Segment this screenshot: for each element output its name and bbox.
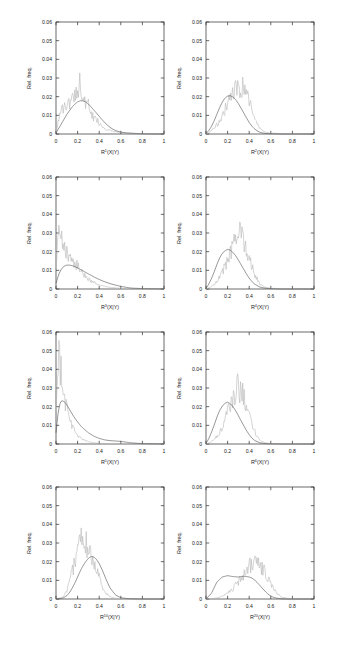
x-tick-label: 0.4 bbox=[96, 138, 103, 144]
x-tick-label: 0.6 bbox=[117, 448, 124, 454]
x-tick-label: 0.8 bbox=[139, 603, 146, 609]
y-tick-label: 0.01 bbox=[192, 422, 202, 428]
distribution-curve-noisy-gray bbox=[56, 225, 164, 289]
x-tick-label: 0.2 bbox=[224, 293, 231, 299]
y-tick-label: 0.01 bbox=[192, 267, 202, 273]
y-tick-label: 0 bbox=[199, 441, 202, 447]
y-tick-label: 0.06 bbox=[192, 174, 202, 180]
x-tick-label: 0.6 bbox=[117, 603, 124, 609]
y-tick-label: 0.03 bbox=[42, 230, 52, 236]
y-tick-label: 0.05 bbox=[42, 193, 52, 199]
y-tick-label: 0.06 bbox=[192, 484, 202, 490]
y-tick-label: 0.06 bbox=[192, 329, 202, 335]
x-tick-label: 0 bbox=[205, 293, 208, 299]
x-tick-label: 0.2 bbox=[74, 138, 81, 144]
histogram-panel-4: 00.010.020.030.040.050.0600.20.40.60.81R… bbox=[172, 169, 326, 313]
x-axis-label: R20(X|Y) bbox=[250, 614, 270, 620]
y-axis-label: Rel. freq. bbox=[176, 67, 182, 89]
x-tick-label: 0.4 bbox=[246, 293, 253, 299]
y-tick-label: 0.01 bbox=[42, 422, 52, 428]
x-tick-label: 1 bbox=[313, 138, 316, 144]
y-tick-label: 0.04 bbox=[42, 366, 52, 372]
y-tick-label: 0 bbox=[49, 131, 52, 137]
x-tick-label: 1 bbox=[313, 448, 316, 454]
y-tick-label: 0 bbox=[49, 286, 52, 292]
y-tick-label: 0.05 bbox=[192, 503, 202, 509]
histogram-panel-3: 00.010.020.030.040.050.0600.20.40.60.81R… bbox=[22, 169, 176, 313]
y-tick-label: 0.02 bbox=[42, 94, 52, 100]
x-tick-label: 0.4 bbox=[246, 448, 253, 454]
distribution-curve-noisy-gray bbox=[206, 77, 314, 134]
y-tick-label: 0.01 bbox=[192, 577, 202, 583]
histogram-panel-5: 00.010.020.030.040.050.0600.20.40.60.81R… bbox=[22, 324, 176, 468]
y-tick-label: 0.02 bbox=[42, 404, 52, 410]
histogram-panel-8: 00.010.020.030.040.050.0600.20.40.60.81R… bbox=[172, 479, 326, 623]
y-tick-label: 0 bbox=[199, 131, 202, 137]
y-tick-label: 0.02 bbox=[192, 404, 202, 410]
x-axis-label: R2(X|Y) bbox=[251, 149, 269, 155]
x-tick-label: 0 bbox=[55, 603, 58, 609]
plot-frame bbox=[206, 22, 314, 134]
distribution-curve-smooth-dark bbox=[56, 265, 164, 289]
y-tick-label: 0.03 bbox=[192, 230, 202, 236]
plot-frame bbox=[206, 177, 314, 289]
plot-frame bbox=[206, 332, 314, 444]
y-tick-label: 0.02 bbox=[192, 94, 202, 100]
distribution-curve-smooth-dark bbox=[56, 556, 164, 599]
plot-frame bbox=[56, 22, 164, 134]
figure-panel-grid: 00.010.020.030.040.050.0600.20.40.60.81R… bbox=[0, 0, 347, 645]
y-tick-label: 0.01 bbox=[192, 112, 202, 118]
y-tick-label: 0.06 bbox=[42, 329, 52, 335]
distribution-curve-noisy-gray bbox=[56, 340, 164, 444]
y-tick-label: 0.05 bbox=[42, 348, 52, 354]
x-tick-label: 0.6 bbox=[267, 448, 274, 454]
y-tick-label: 0.04 bbox=[42, 211, 52, 217]
x-tick-label: 0.2 bbox=[74, 293, 81, 299]
x-tick-label: 0 bbox=[55, 138, 58, 144]
x-tick-label: 0 bbox=[205, 603, 208, 609]
x-tick-label: 1 bbox=[163, 448, 166, 454]
plot-frame bbox=[206, 487, 314, 599]
x-tick-label: 0.2 bbox=[224, 138, 231, 144]
x-tick-label: 1 bbox=[163, 603, 166, 609]
y-tick-label: 0 bbox=[49, 596, 52, 602]
y-tick-label: 0.03 bbox=[42, 75, 52, 81]
y-tick-label: 0 bbox=[49, 441, 52, 447]
x-tick-label: 0.2 bbox=[74, 603, 81, 609]
x-tick-label: 0.8 bbox=[289, 293, 296, 299]
x-tick-label: 1 bbox=[163, 293, 166, 299]
y-tick-label: 0.03 bbox=[42, 385, 52, 391]
y-tick-label: 0.06 bbox=[42, 174, 52, 180]
histogram-panel-6: 00.010.020.030.040.050.0600.20.40.60.81R… bbox=[172, 324, 326, 468]
y-tick-label: 0.06 bbox=[42, 19, 52, 25]
y-tick-label: 0.03 bbox=[192, 540, 202, 546]
x-tick-label: 0.4 bbox=[246, 603, 253, 609]
x-tick-label: 0.6 bbox=[117, 138, 124, 144]
y-tick-label: 0.01 bbox=[42, 267, 52, 273]
y-tick-label: 0.03 bbox=[192, 385, 202, 391]
x-tick-label: 0.8 bbox=[139, 293, 146, 299]
histogram-panel-7: 00.010.020.030.040.050.0600.20.40.60.81R… bbox=[22, 479, 176, 623]
histogram-panel-2: 00.010.020.030.040.050.0600.20.40.60.81R… bbox=[172, 14, 326, 158]
x-tick-label: 0.4 bbox=[96, 293, 103, 299]
x-axis-label: R1(X|Y) bbox=[101, 149, 119, 155]
y-tick-label: 0.02 bbox=[192, 559, 202, 565]
x-tick-label: 0 bbox=[205, 448, 208, 454]
y-tick-label: 0.04 bbox=[42, 56, 52, 62]
x-tick-label: 0.4 bbox=[246, 138, 253, 144]
x-tick-label: 1 bbox=[313, 293, 316, 299]
y-tick-label: 0.04 bbox=[42, 521, 52, 527]
y-axis-label: Rel. freq. bbox=[26, 532, 32, 554]
x-tick-label: 0.2 bbox=[224, 448, 231, 454]
x-tick-label: 0.8 bbox=[289, 448, 296, 454]
x-tick-label: 0.4 bbox=[96, 448, 103, 454]
x-tick-label: 0.6 bbox=[267, 603, 274, 609]
distribution-curve-noisy-gray bbox=[56, 73, 164, 134]
distribution-curve-smooth-dark bbox=[56, 401, 164, 444]
x-tick-label: 0 bbox=[55, 293, 58, 299]
y-axis-label: Rel. freq. bbox=[26, 222, 32, 244]
y-tick-label: 0.02 bbox=[42, 249, 52, 255]
y-axis-label: Rel. freq. bbox=[176, 222, 182, 244]
y-tick-label: 0.06 bbox=[192, 19, 202, 25]
x-tick-label: 0.6 bbox=[267, 293, 274, 299]
